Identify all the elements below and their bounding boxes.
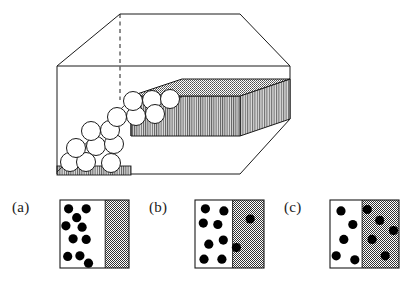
panel-a-label: (a)	[12, 199, 30, 216]
particle-dot	[375, 216, 384, 225]
panel-b-dense-region	[233, 200, 264, 268]
particle-dot	[199, 255, 208, 264]
particle-dot	[199, 219, 208, 228]
particle-dot	[217, 255, 226, 264]
particle-dot	[332, 251, 341, 260]
particle-dot	[246, 214, 255, 223]
particle-dot	[389, 226, 398, 235]
pile-circle	[146, 105, 165, 124]
pile-circle	[161, 90, 180, 109]
particle-dot	[381, 251, 390, 260]
pile-circle	[67, 139, 86, 158]
panel-c-label: (c)	[284, 199, 302, 216]
particle-dot	[84, 259, 93, 268]
particle-dot	[61, 221, 70, 230]
particle-dot	[363, 205, 372, 214]
particle-dot	[63, 252, 72, 261]
particle-dot	[75, 251, 84, 260]
particle-dot	[339, 235, 348, 244]
pile-circle	[102, 154, 121, 173]
particle-dot	[78, 223, 87, 232]
particle-dot	[82, 235, 91, 244]
panel-a	[60, 200, 129, 268]
particle-dot	[336, 206, 345, 215]
particle-dot	[348, 220, 357, 229]
pile-circle	[108, 108, 127, 127]
panel-c	[330, 200, 399, 268]
particle-dot	[213, 220, 222, 229]
figure-root	[0, 0, 407, 283]
particle-dot	[72, 213, 81, 222]
pile-circle	[124, 92, 143, 111]
particle-dot	[201, 204, 210, 213]
particle-dot	[232, 243, 241, 252]
box-top-face-edges	[57, 14, 290, 66]
panel-b-label: (b)	[149, 199, 167, 216]
particle-dot	[350, 255, 359, 264]
particle-dot	[82, 204, 91, 213]
panel-b	[195, 200, 264, 268]
particle-dot	[204, 240, 213, 249]
panel-a-dense-region	[105, 200, 129, 268]
particle-dot	[64, 204, 73, 213]
particle-dot	[69, 234, 78, 243]
particle-dot	[368, 235, 377, 244]
particle-dot	[219, 236, 228, 245]
particle-dot	[219, 206, 228, 215]
pile-circle	[82, 122, 101, 141]
